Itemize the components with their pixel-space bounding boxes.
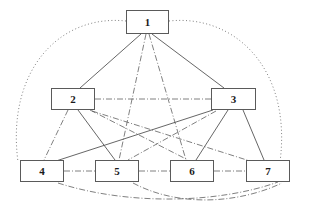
- node-label-4: 4: [39, 166, 45, 177]
- edge-1-5: [119, 34, 146, 160]
- node-1[interactable]: 1: [126, 10, 169, 34]
- edge-2-7: [92, 111, 250, 161]
- node-label-3: 3: [231, 94, 237, 105]
- node-label-6: 6: [189, 166, 195, 177]
- node-6[interactable]: 6: [170, 160, 214, 182]
- node-7[interactable]: 7: [246, 160, 290, 182]
- node-label-7: 7: [265, 166, 271, 177]
- node-5[interactable]: 5: [95, 160, 139, 182]
- edge-5-7: [133, 183, 282, 200]
- edge-3-7: [243, 110, 264, 160]
- node-4[interactable]: 4: [20, 160, 64, 182]
- edge-4-7: [58, 182, 278, 199]
- node-label-1: 1: [145, 17, 151, 28]
- edge-2-4: [44, 110, 68, 160]
- node-label-2: 2: [70, 94, 76, 105]
- edge-3-4: [56, 110, 213, 161]
- edge-1-2: [80, 34, 141, 88]
- node-2[interactable]: 2: [51, 88, 95, 110]
- edge-3-5: [128, 111, 216, 160]
- edge-1-6: [149, 34, 186, 160]
- node-label-5: 5: [114, 166, 120, 177]
- node-3[interactable]: 3: [211, 88, 256, 110]
